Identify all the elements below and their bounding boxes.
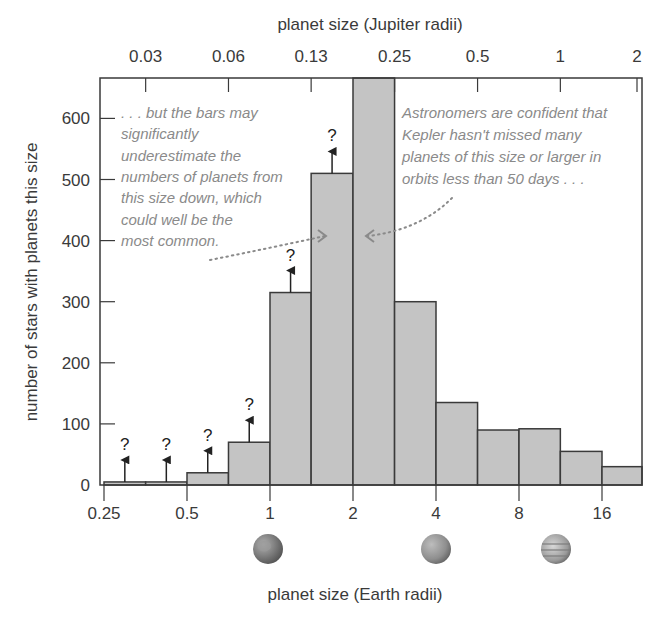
annotation-left-connector (210, 236, 325, 260)
x-tick-label: 8 (514, 504, 523, 523)
y-tick-label: 200 (62, 354, 90, 373)
y-tick-label: 500 (62, 171, 90, 190)
y-tick-label: 0 (81, 476, 90, 495)
question-mark: ? (245, 395, 254, 414)
annotation-line: . . . but the bars may (121, 104, 259, 121)
annotation-line: significantly (121, 125, 200, 142)
histogram-bar (311, 173, 353, 485)
histogram-bar (478, 430, 519, 485)
question-mark: ? (203, 426, 212, 445)
x-tick-label: 0.25 (87, 504, 120, 523)
x-tick-label: 16 (593, 504, 612, 523)
histogram-bar (228, 442, 270, 485)
annotation-line: underestimate the (121, 147, 241, 164)
annotation-left: . . . but the bars maysignificantlyunder… (121, 104, 283, 249)
x-top-tick-label: 0.13 (295, 47, 328, 66)
annotation-line: Astronomers are confident that (401, 104, 608, 121)
histogram-bar (395, 302, 436, 485)
x-top-tick-label: 0.25 (378, 47, 411, 66)
planet-icons (253, 534, 571, 564)
x-tick-label: 1 (265, 504, 274, 523)
histogram-bar (560, 451, 602, 485)
y-tick-label: 400 (62, 232, 90, 251)
annotation-line: this size down, which (121, 189, 262, 206)
y-tick-label: 600 (62, 109, 90, 128)
x-top-tick-label: 0.5 (466, 47, 490, 66)
x-top-axis-label: planet size (Jupiter radii) (277, 15, 462, 34)
x-tick-label: 2 (348, 504, 357, 523)
histogram-chart: ?????? 0100200300400500600 0.250.5124816… (0, 0, 663, 621)
x-tick-label: 4 (431, 504, 440, 523)
annotation-line: orbits less than 50 days . . . (402, 170, 585, 187)
annotation-right: Astronomers are confident thatKepler has… (401, 104, 608, 187)
question-mark: ? (120, 435, 129, 454)
annotation-line: could well be the (121, 211, 233, 228)
annotation-line: numbers of planets from (121, 168, 283, 185)
x-top-tick-label: 1 (556, 47, 565, 66)
histogram-bar (602, 467, 642, 485)
y-tick-label: 300 (62, 293, 90, 312)
x-axis-bottom: 0.250.5124816 (87, 485, 611, 523)
y-axis: 0100200300400500600 (62, 109, 115, 495)
annotation-line: planets of this size or larger in (401, 148, 601, 165)
histogram-bar (436, 403, 478, 485)
annotation-line: Kepler hasn't missed many (402, 126, 583, 143)
histogram-bar (187, 473, 228, 485)
y-tick-label: 100 (62, 415, 90, 434)
x-top-tick-label: 2 (632, 47, 641, 66)
question-mark: ? (286, 246, 295, 265)
x-top-tick-label: 0.06 (212, 47, 245, 66)
annotation-line: most common. (121, 232, 219, 249)
histogram-bar (270, 293, 311, 485)
x-tick-label: 0.5 (175, 504, 199, 523)
question-mark: ? (162, 435, 171, 454)
question-mark: ? (327, 126, 336, 145)
neptune-icon (421, 534, 451, 564)
histogram-bar (519, 429, 560, 485)
x-top-tick-label: 0.03 (129, 47, 162, 66)
histogram-bar (353, 78, 395, 485)
x-bottom-axis-label: planet size (Earth radii) (268, 585, 443, 604)
y-axis-label: number of stars with planets this size (22, 143, 41, 422)
